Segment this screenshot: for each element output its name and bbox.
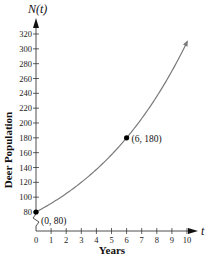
y-tick-label: 140 [19, 163, 32, 173]
chart: 80100120140160180200220240260280300320 0… [0, 0, 210, 260]
x-axis-title: Years [99, 244, 126, 256]
y-tick-label: 200 [19, 118, 32, 128]
x-tick-label: 3 [79, 235, 83, 245]
growth-curve [36, 42, 187, 212]
data-point-label: (0, 80) [41, 216, 66, 227]
x-tick-label: 0 [34, 235, 38, 245]
x-tick-label: 2 [64, 235, 68, 245]
y-tick-label: 220 [19, 103, 32, 113]
y-tick-label: 300 [19, 44, 32, 54]
y-tick-label: 160 [19, 148, 32, 158]
data-point-label: (6, 180) [132, 134, 162, 145]
y-tick-label: 180 [19, 133, 32, 143]
x-axis-ticks: 012345678910 [34, 228, 191, 245]
y-axis-arrow-icon [33, 18, 39, 28]
y-tick-label: 80 [24, 207, 33, 217]
y-tick-label: 280 [19, 59, 32, 69]
data-point-marker [124, 135, 129, 140]
y-tick-label: 260 [19, 74, 32, 84]
y-tick-label: 100 [19, 192, 32, 202]
x-tick-label: 8 [155, 235, 159, 245]
x-axis-variable: t [201, 224, 205, 238]
y-tick-label: 320 [19, 29, 32, 39]
y-tick-label: 120 [19, 177, 32, 187]
x-axis-arrow-icon [188, 228, 198, 234]
x-tick-label: 1 [49, 235, 53, 245]
x-tick-label: 7 [140, 235, 144, 245]
y-axis-variable: N(t) [27, 2, 47, 16]
data-point-marker [33, 209, 38, 214]
data-points: (0, 80)(6, 180) [33, 134, 161, 227]
x-tick-label: 9 [170, 235, 174, 245]
x-tick-label: 10 [183, 235, 192, 245]
y-tick-label: 240 [19, 88, 32, 98]
axis-break-icon [33, 214, 39, 231]
y-axis-title: Deer Population [2, 112, 14, 189]
